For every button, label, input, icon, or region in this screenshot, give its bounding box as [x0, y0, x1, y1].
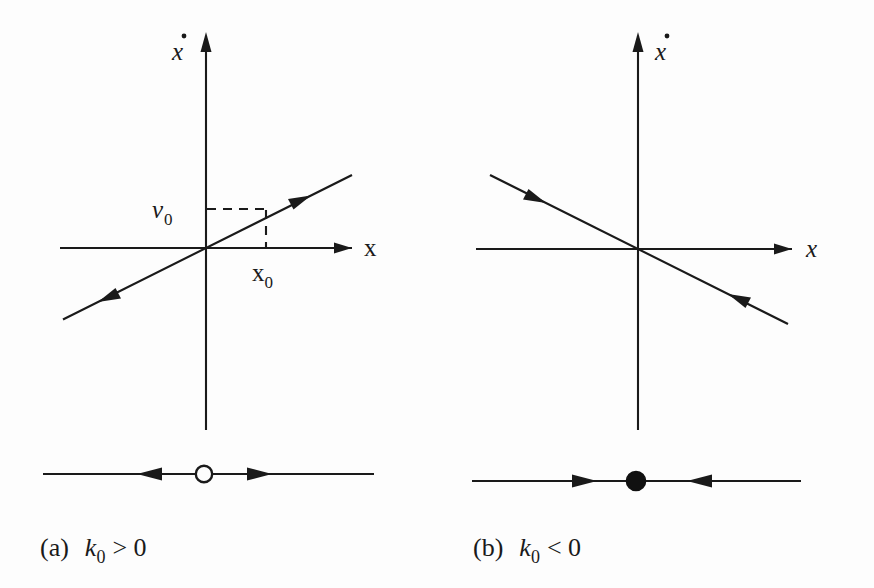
panel-a: v0 x0 x x — [60, 32, 377, 430]
phase-line-b-arrow-right-icon — [572, 475, 597, 488]
panel-a-trajectory-arrow-outward-upper-icon — [288, 196, 311, 210]
phase-line-a — [43, 466, 374, 482]
phase-line-a-fixed-point-open-icon — [196, 466, 212, 482]
caption-b-text: (b)k0< 0 — [473, 533, 581, 567]
panel-a-y-axis-dot-accent-icon — [182, 34, 187, 39]
caption-a: (a)k0> 0 — [40, 533, 147, 567]
panel-a-y-axis — [201, 32, 212, 430]
panel-a-v0-label: v0 — [152, 196, 173, 229]
panel-a-x0-label: x0 — [252, 259, 273, 292]
panel-b-y-axis-label-group: x — [654, 34, 669, 65]
panel-a-y-axis-label: x — [171, 38, 183, 65]
panel-a-x-axis-label: x — [364, 234, 377, 261]
panel-a-y-axis-arrow-icon — [201, 32, 212, 52]
caption-a-text: (a)k0> 0 — [40, 533, 147, 567]
phase-line-b-arrow-left-icon — [687, 475, 712, 488]
panel-b-x-axis — [476, 244, 792, 255]
phase-line-a-arrow-left-icon — [137, 468, 162, 481]
panel-b-x-axis-label: x — [805, 235, 817, 262]
phase-line-a-arrow-right-icon — [247, 468, 272, 481]
panel-b-trajectory-arrow-inward-upper-icon — [523, 189, 546, 203]
phase-portrait-figure: v0 x0 x x — [0, 0, 874, 588]
panel-b-y-axis — [633, 32, 644, 430]
panel-b-y-axis-dot-accent-icon — [665, 34, 670, 39]
panel-b-x-axis-arrow-icon — [774, 244, 792, 255]
panel-a-y-axis-label-group: x — [171, 34, 186, 65]
figure-container: v0 x0 x x — [0, 0, 874, 588]
panel-b-y-axis-label: x — [654, 38, 666, 65]
phase-line-b — [472, 471, 801, 490]
panel-a-x-axis-arrow-icon — [334, 243, 352, 254]
panel-b-y-axis-arrow-icon — [633, 32, 644, 52]
phase-line-b-fixed-point-filled-icon — [626, 471, 645, 490]
caption-b: (b)k0< 0 — [473, 533, 581, 567]
panel-b-trajectory-arrow-inward-lower-icon — [728, 294, 751, 308]
panel-a-trajectory-arrow-outward-lower-icon — [98, 288, 121, 302]
panel-b: x x — [476, 32, 817, 430]
